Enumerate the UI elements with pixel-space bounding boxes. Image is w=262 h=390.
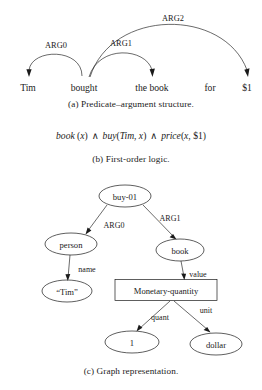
panel-first-order-logic: book (x) ∧ buy(Tim, x) ∧ price(x, $1) (b…	[0, 112, 262, 172]
arc-arg2	[90, 24, 247, 77]
edge-label-quant: quant	[151, 313, 170, 322]
arc-arg0	[29, 54, 82, 76]
arrowhead-graph-quant	[137, 325, 143, 332]
node-one-label: 1	[130, 338, 134, 348]
edge-label-arg1: ARG1	[160, 214, 181, 223]
node-one[interactable]: 1	[105, 331, 159, 353]
sentence-word-the-book: the book	[135, 82, 169, 93]
arrowhead-graph-arg1	[170, 234, 177, 240]
node-monetary-quantity[interactable]: Monetary-quantity	[115, 280, 217, 301]
node-dollar-label: dollar	[206, 340, 226, 350]
fol-conjunction-1: ∧	[90, 130, 100, 141]
arc-label-arg0: ARG0	[45, 41, 67, 50]
arrowhead-arg2	[244, 68, 249, 77]
arrowhead-graph-arg0	[86, 228, 92, 235]
arrowhead-arg0	[26, 69, 31, 77]
node-tim-label: “Tim”	[56, 287, 78, 297]
node-book[interactable]: book	[156, 239, 204, 261]
edge-label-name: name	[78, 265, 96, 274]
node-monetary-quantity-label: Monetary-quantity	[134, 286, 199, 296]
arrowhead-arg1	[150, 69, 155, 77]
node-dollar[interactable]: dollar	[190, 333, 242, 355]
fol-pred-book: book	[56, 130, 75, 141]
node-book-label: book	[171, 246, 189, 256]
arc-arg1	[89, 53, 152, 77]
first-order-logic-formula: book (x) ∧ buy(Tim, x) ∧ price(x, $1)	[0, 130, 262, 141]
arc-label-arg1: ARG1	[110, 39, 132, 48]
caption-b: (b) First-order logic.	[0, 154, 262, 164]
figure-container: ARG0 ARG1 ARG2 Tim bought the book for $…	[0, 0, 262, 390]
node-tim[interactable]: “Tim”	[42, 280, 92, 302]
node-buy01-label: buy-01	[113, 192, 137, 202]
edge-label-value: value	[189, 270, 207, 279]
node-buy01[interactable]: buy-01	[99, 185, 151, 207]
fol-pred-price: price	[161, 130, 181, 141]
sentence-word-tim: Tim	[20, 82, 36, 93]
fol-sep-6: )	[143, 130, 149, 141]
fol-conjunction-2: ∧	[149, 130, 159, 141]
sentence-word-for: for	[204, 82, 216, 93]
sentence-word-dollar1: $1	[242, 82, 252, 93]
edge-label-unit: unit	[200, 306, 213, 315]
node-person-label: person	[60, 240, 84, 250]
panel-graph-representation: buy-01 person book “Tim” Monetary-quanti…	[0, 172, 262, 390]
edge-label-arg0: ARG0	[104, 221, 125, 230]
panel-predicate-argument: ARG0 ARG1 ARG2 Tim bought the book for $…	[0, 0, 262, 112]
sentence-word-bought: bought	[71, 82, 98, 93]
fol-const-tim: Tim	[120, 130, 134, 141]
arrowhead-graph-value	[181, 274, 186, 281]
caption-c: (c) Graph representation.	[0, 366, 262, 376]
arc-label-arg2: ARG2	[162, 14, 184, 23]
arrowhead-graph-unit	[204, 327, 211, 333]
dependency-arc-diagram: ARG0 ARG1 ARG2 Tim bought the book for $…	[0, 0, 262, 95]
node-person[interactable]: person	[45, 233, 97, 255]
fol-pred-buy: buy	[103, 130, 117, 141]
amr-graph: buy-01 person book “Tim” Monetary-quanti…	[0, 172, 262, 364]
fol-sep-9: , $1)	[188, 130, 206, 141]
caption-a: (a) Predicate–argument structure.	[0, 99, 262, 109]
